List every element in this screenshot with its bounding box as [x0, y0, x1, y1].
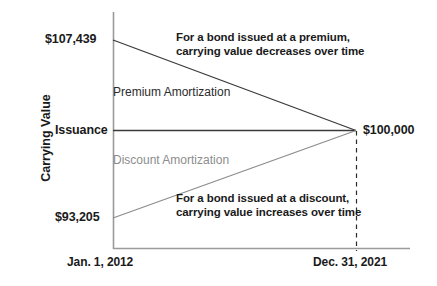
- premium-annotation-line-1: For a bond issued at a premium,: [176, 30, 364, 44]
- x-axis-end-tick-label: Dec. 31, 2021: [313, 255, 387, 270]
- discount-amortization-label: Discount Amortization: [113, 153, 229, 168]
- issuance-value-label: Issuance: [55, 123, 108, 139]
- discount-annotation: For a bond issued at a discount, carryin…: [176, 191, 361, 220]
- discount-annotation-line-1: For a bond issued at a discount,: [176, 191, 361, 205]
- premium-annotation-line-2: carrying value decreases over time: [176, 44, 364, 58]
- premium-amortization-label: Premium Amortization: [113, 85, 230, 100]
- x-axis-start-tick-label: Jan. 1, 2012: [67, 255, 133, 270]
- discount-annotation-line-2: carrying value increases over time: [176, 205, 361, 219]
- premium-start-value-label: $107,439: [45, 32, 96, 48]
- bond-carrying-value-chart: Carrying Value $107,439 Issuance $93,205…: [0, 0, 437, 286]
- premium-annotation: For a bond issued at a premium, carrying…: [176, 30, 364, 59]
- maturity-value-label: $100,000: [363, 123, 414, 139]
- discount-start-value-label: $93,205: [55, 210, 100, 226]
- y-axis-title: Carrying Value: [39, 68, 53, 208]
